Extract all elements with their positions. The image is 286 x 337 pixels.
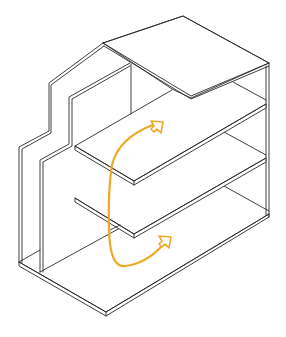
inner-left-wall: [40, 63, 130, 272]
roof: [103, 16, 269, 99]
outer-left-wall: [19, 43, 104, 263]
upper-back-floor-line: [75, 90, 172, 146]
upper-floor-slab: [75, 104, 266, 185]
house-section-diagram: [0, 0, 286, 337]
upper-arrowhead-icon: [151, 121, 163, 133]
right-wall: [224, 63, 269, 217]
lower-arrowhead-icon: [159, 236, 171, 248]
middle-floor-slab: [75, 158, 266, 238]
circulation-arrow: [109, 121, 171, 266]
